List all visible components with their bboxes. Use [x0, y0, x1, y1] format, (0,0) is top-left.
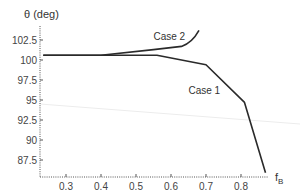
x-tick-label: 0.7 — [199, 181, 213, 192]
x-axis-title-sub: B — [278, 177, 283, 186]
annotation-case-1: Case 1 — [189, 85, 221, 96]
x-tick-label: 0.4 — [94, 181, 108, 192]
x-tick-label: 0.3 — [59, 181, 73, 192]
series-line-case-1 — [43, 55, 265, 173]
x-tick-label: 0.6 — [164, 181, 178, 192]
y-tick-label: 92.5 — [18, 115, 38, 126]
x-axis-title: fB — [275, 171, 283, 186]
x-ticks: 0.30.40.50.60.70.8 — [59, 174, 248, 192]
y-axis-title: θ (deg) — [24, 8, 59, 20]
annotations-group: Case 2Case 1 — [154, 31, 221, 96]
y-tick-label: 95 — [26, 95, 38, 106]
y-tick-label: 97.5 — [18, 75, 38, 86]
y-ticks: 87.59092.59597.5100102.5 — [12, 35, 43, 166]
y-tick-label: 100 — [20, 55, 37, 66]
series-group — [43, 30, 265, 172]
scan-artifact-line — [40, 104, 300, 124]
x-tick-label: 0.5 — [129, 181, 143, 192]
annotation-case-2: Case 2 — [154, 31, 186, 42]
x-tick-label: 0.8 — [234, 181, 248, 192]
chart: θ (deg) 87.59092.59597.5100102.5 0.30.40… — [0, 0, 300, 196]
y-tick-label: 90 — [26, 135, 38, 146]
y-tick-label: 102.5 — [12, 35, 37, 46]
y-tick-label: 87.5 — [18, 155, 38, 166]
